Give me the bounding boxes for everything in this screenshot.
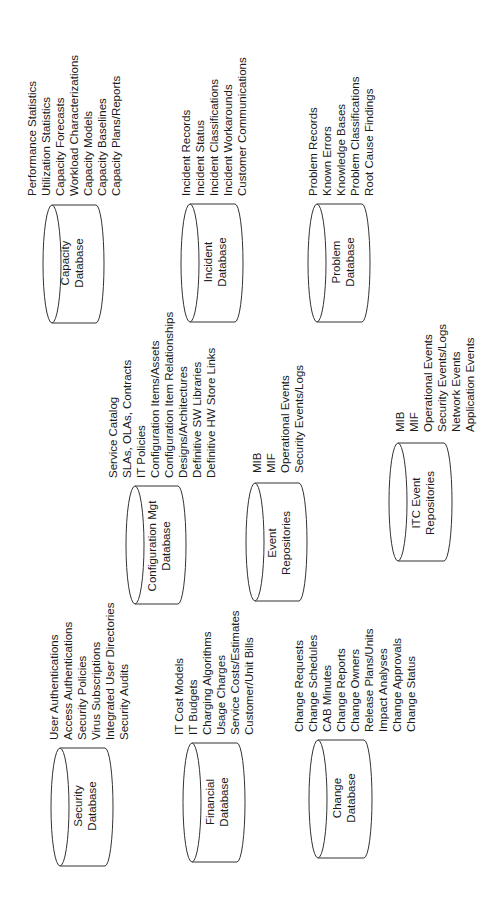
list-item: Change Owners xyxy=(348,628,362,732)
list-item: Designs/Architectures xyxy=(176,312,190,478)
problem-items: Problem Records Known Errors Knowledge B… xyxy=(306,76,376,196)
list-item: Incident Classifications xyxy=(207,57,221,196)
list-item: Customer Communications xyxy=(235,57,249,196)
cylinder-label: Problem Database xyxy=(329,234,357,290)
list-item: Change Approvals xyxy=(390,628,404,732)
list-item: Configuration Items/Assets xyxy=(148,312,162,478)
configuration-database-cylinder: Configuration Mgt Database xyxy=(125,486,186,604)
list-item: Virus Subscriptions xyxy=(89,603,103,740)
list-item: Release Plans/Units xyxy=(362,628,376,732)
list-item: Operational Events xyxy=(278,365,292,473)
list-item: Service Catalog xyxy=(106,312,120,478)
list-item: Capacity Baselines xyxy=(95,55,109,196)
list-item: Access Authentications xyxy=(61,603,75,740)
list-item: Operational Events xyxy=(421,324,435,432)
list-item: Change Schedules xyxy=(306,628,320,732)
configuration-items: Service Catalog SLAs, OLAs, Contracts IT… xyxy=(106,312,218,478)
cylinder-label: Security Database xyxy=(71,778,99,834)
list-item: Known Errors xyxy=(320,76,334,196)
cylinder-label: Incident Database xyxy=(201,234,229,290)
cylinder-label: ITC Event Repositories xyxy=(409,468,437,538)
list-item: MIB xyxy=(393,324,407,432)
list-item: IT Budgets xyxy=(186,610,200,735)
itc-event-items: MIB MIF Operational Events Security Even… xyxy=(393,324,477,432)
list-item: User Authentications xyxy=(47,603,61,740)
list-item: Application Events xyxy=(463,324,477,432)
list-item: Security Audits xyxy=(117,603,131,740)
incident-items: Incident Records Incident Status Inciden… xyxy=(179,57,249,196)
list-item: MIF xyxy=(264,365,278,473)
event-repositories-cylinder: Event Repositories xyxy=(245,483,307,601)
list-item: Utilization Statistics xyxy=(39,55,53,196)
change-database-cylinder: Change Database xyxy=(308,740,372,858)
capacity-items: Performance Statistics Utilization Stati… xyxy=(25,55,123,196)
list-item: Network Events xyxy=(449,324,463,432)
list-item: Security Policies xyxy=(75,603,89,740)
list-item: Security Events/Logs xyxy=(292,365,306,473)
list-item: Usage Charges xyxy=(214,610,228,735)
list-item: Change Requests xyxy=(292,628,306,732)
security-database-cylinder: Security Database xyxy=(50,748,113,866)
security-items: User Authentications Access Authenticati… xyxy=(47,603,131,740)
change-items: Change Requests Change Schedules CAB Min… xyxy=(292,628,418,732)
cylinder-label: Capacity Database xyxy=(58,235,86,291)
list-item: IT Policies xyxy=(134,312,148,478)
list-item: Integrated User Directories xyxy=(103,603,117,740)
list-item: Change Status xyxy=(404,628,418,732)
list-item: Definitive HW Store Links xyxy=(204,312,218,478)
financial-database-cylinder: Financial Database xyxy=(182,743,245,862)
cylinder-label: Financial Database xyxy=(203,774,231,830)
list-item: Capacity Plans/Reports xyxy=(109,55,123,196)
list-item: Charging Algorithms xyxy=(200,610,214,735)
capacity-database-cylinder: Capacity Database xyxy=(42,205,104,323)
list-item: Change Reports xyxy=(334,628,348,732)
cylinder-label: Event Repositories xyxy=(265,508,293,578)
list-item: MIF xyxy=(407,324,421,432)
list-item: Service Costs/Estimates xyxy=(228,610,242,735)
list-item: Incident Records xyxy=(179,57,193,196)
list-item: Capacity Models xyxy=(81,55,95,196)
cylinder-label: Configuration Mgt Database xyxy=(145,493,173,599)
cylinder-label: Change Database xyxy=(330,770,358,826)
list-item: CAB Minutes xyxy=(320,628,334,732)
event-items: MIB MIF Operational Events Security Even… xyxy=(250,365,306,473)
list-item: Root Cause Findings xyxy=(362,76,376,196)
list-item: SLAs, OLAs, Contracts xyxy=(120,312,134,478)
list-item: Security Events/Logs xyxy=(435,324,449,432)
problem-database-cylinder: Problem Database xyxy=(307,204,370,322)
list-item: Problem Classifications xyxy=(348,76,362,196)
list-item: Knowledge Bases xyxy=(334,76,348,196)
list-item: IT Cost Models xyxy=(172,610,186,735)
list-item: Definitive SW Libraries xyxy=(190,312,204,478)
list-item: Customer/Unit Bills xyxy=(242,610,256,735)
list-item: Configuration Item Relationships xyxy=(162,312,176,478)
list-item: Impact Analyses xyxy=(376,628,390,732)
itc-event-repositories-cylinder: ITC Event Repositories xyxy=(388,443,452,561)
list-item: MIB xyxy=(250,365,264,473)
list-item: Performance Statistics xyxy=(25,55,39,196)
incident-database-cylinder: Incident Database xyxy=(180,204,243,322)
list-item: Workload Characterizations xyxy=(67,55,81,196)
financial-items: IT Cost Models IT Budgets Charging Algor… xyxy=(172,610,256,735)
list-item: Problem Records xyxy=(306,76,320,196)
list-item: Incident Workarounds xyxy=(221,57,235,196)
list-item: Capacity Forecasts xyxy=(53,55,67,196)
list-item: Incident Status xyxy=(193,57,207,196)
